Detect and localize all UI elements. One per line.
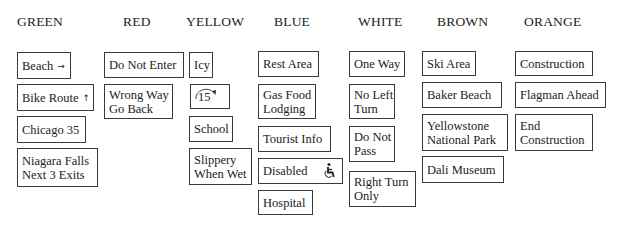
sign-label-line2: Turn: [354, 102, 390, 116]
sign-label: Construction: [520, 57, 588, 71]
sign-label: One Way: [354, 57, 400, 71]
sign-label: Hospital: [263, 196, 308, 210]
sign-do-not-pass: Do Not Pass: [349, 126, 395, 162]
sign-label: School: [194, 122, 228, 136]
header-red: RED: [123, 13, 151, 31]
sign-wrong-way: Wrong Way Go Back: [104, 84, 173, 119]
sign-beach: Beach →: [17, 52, 71, 79]
sign-label-line2: Construction: [520, 133, 588, 147]
sign-flagman-ahead: Flagman Ahead: [515, 82, 606, 108]
sign-label-line2: Lodging: [263, 102, 311, 116]
sign-label: Dali Museum: [427, 163, 499, 177]
sign-label-line2: Go Back: [109, 102, 168, 116]
sign-hospital: Hospital: [258, 190, 313, 215]
sign-label: Beach: [22, 59, 53, 73]
header-yellow: YELLOW: [186, 13, 244, 31]
sign-slippery: Slippery When Wet: [189, 148, 252, 185]
sign-label: Do Not Enter: [109, 58, 179, 72]
sign-school: School: [189, 116, 233, 142]
sign-label-line2: National Park: [427, 133, 503, 147]
sign-label: Baker Beach: [427, 88, 497, 102]
sign-dali-museum: Dali Museum: [422, 156, 504, 183]
sign-label: Disabled: [263, 164, 307, 178]
sign-right-turn-only: Right Turn Only: [349, 171, 416, 207]
sign-label: Flagman Ahead: [520, 88, 601, 102]
sign-baker-beach: Baker Beach: [422, 82, 502, 108]
sign-chicago: Chicago 35: [17, 116, 86, 143]
sign-label-line1: Gas Food: [263, 88, 311, 102]
sign-rest-area: Rest Area: [258, 51, 319, 77]
sign-end-construction: End Construction: [515, 114, 593, 151]
header-green: GREEN: [17, 13, 63, 31]
sign-label-line2: When Wet: [194, 167, 247, 181]
arrow-up-icon: ↑: [83, 91, 91, 105]
sign-label-line2: Only: [354, 189, 411, 203]
sign-label-line1: Niagara Falls: [22, 154, 93, 168]
sign-label: Bike Route: [22, 91, 79, 105]
sign-ski-area: Ski Area: [422, 51, 476, 76]
arrow-right-icon: →: [57, 59, 65, 73]
sign-label: Tourist Info: [263, 132, 326, 146]
sign-label-line1: Yellowstone: [427, 119, 503, 133]
sign-curve-speed: 15: [190, 84, 230, 109]
sign-label: Chicago 35: [22, 123, 81, 137]
header-blue: BLUE: [274, 13, 310, 31]
sign-label: Ski Area: [427, 57, 471, 71]
header-orange: ORANGE: [524, 13, 581, 31]
sign-label-line1: Right Turn: [354, 175, 411, 189]
sign-one-way: One Way: [349, 51, 405, 77]
sign-icy: Icy: [189, 52, 213, 78]
header-brown: BROWN: [437, 13, 488, 31]
sign-gas-food-lodging: Gas Food Lodging: [258, 84, 316, 119]
sign-label-line2: Next 3 Exits: [22, 168, 93, 182]
sign-niagara-falls: Niagara Falls Next 3 Exits: [17, 148, 98, 187]
sign-yellowstone: Yellowstone National Park: [422, 114, 508, 151]
curved-arrow-icon: [193, 85, 219, 101]
sign-label: Icy: [194, 58, 208, 72]
sign-label-line2: Pass: [354, 144, 390, 158]
wheelchair-icon: [323, 163, 336, 179]
header-white: WHITE: [358, 13, 402, 31]
sign-disabled: Disabled: [258, 158, 343, 184]
sign-tourist-info: Tourist Info: [258, 126, 331, 152]
sign-label: Rest Area: [263, 57, 314, 71]
sign-construction: Construction: [515, 51, 593, 76]
sign-label-line1: Do Not: [354, 130, 390, 144]
sign-do-not-enter: Do Not Enter: [104, 52, 184, 78]
sign-bike-route: Bike Route ↑: [17, 84, 94, 111]
sign-label-line1: Wrong Way: [109, 88, 168, 102]
sign-label-line1: No Left: [354, 88, 390, 102]
sign-label-line1: End: [520, 119, 588, 133]
sign-no-left-turn: No Left Turn: [349, 84, 395, 119]
sign-label-line1: Slippery: [194, 153, 247, 167]
